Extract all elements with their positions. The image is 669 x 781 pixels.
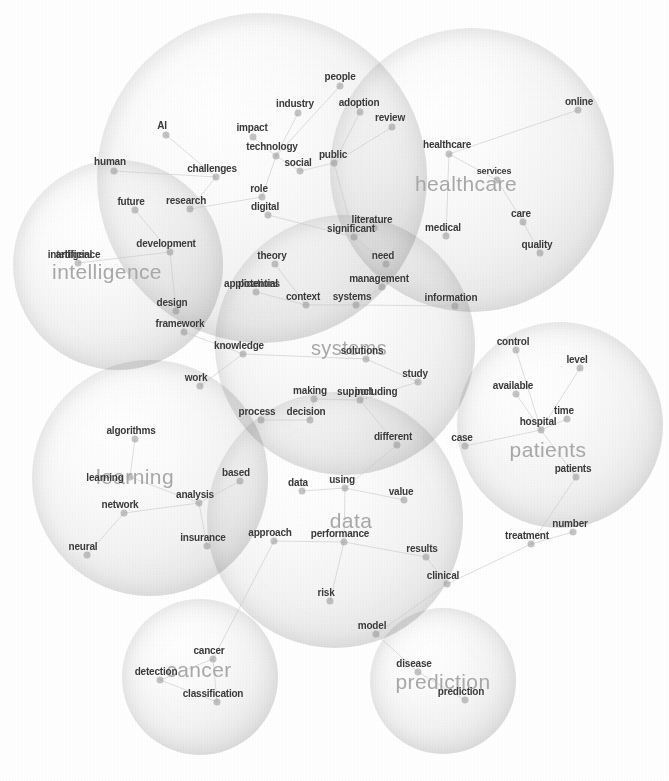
node-dot: [357, 109, 364, 116]
term-label-management: management: [349, 273, 409, 284]
node-dot: [520, 219, 527, 226]
term-label-potential: potential: [238, 278, 278, 289]
term-label-review: review: [375, 112, 405, 123]
node-dot: [259, 194, 266, 201]
node-dot: [132, 207, 139, 214]
node-dot: [240, 351, 247, 358]
node-dot: [443, 233, 450, 240]
node-dot: [570, 529, 577, 536]
node-dot: [253, 289, 260, 296]
node-dot: [353, 302, 360, 309]
node-dot: [394, 442, 401, 449]
node-dot: [272, 261, 279, 268]
term-label-results: results: [406, 543, 437, 554]
node-dot: [423, 554, 430, 561]
term-label-online: online: [565, 96, 593, 107]
node-dot: [341, 539, 348, 546]
node-dot: [446, 151, 453, 158]
term-label-technology: technology: [246, 141, 297, 152]
term-label-people: people: [324, 71, 355, 82]
term-label-algorithms: algorithms: [106, 425, 155, 436]
node-dot: [132, 436, 139, 443]
term-label-significant: significant: [327, 223, 375, 234]
term-label-solutions: solutions: [341, 345, 384, 356]
cluster-title-intelligence: intelligence: [52, 260, 162, 284]
node-dot: [351, 234, 358, 241]
node-dot: [303, 302, 310, 309]
node-dot: [564, 416, 571, 423]
term-label-different: different: [374, 431, 412, 442]
term-label-role: role: [250, 183, 268, 194]
node-dot: [157, 677, 164, 684]
term-label-risk: risk: [318, 587, 335, 598]
node-dot: [295, 110, 302, 117]
term-label-work: work: [185, 372, 208, 383]
bubble-cluster-figure: healthcareintelligencesystemslearningdat…: [0, 0, 669, 781]
node-dot: [84, 552, 91, 559]
term-label-level: level: [566, 354, 587, 365]
node-dot: [258, 417, 265, 424]
node-dot: [444, 581, 451, 588]
term-label-future: future: [117, 196, 144, 207]
term-label-design: design: [156, 297, 187, 308]
node-dot: [462, 443, 469, 450]
term-label-detection: detection: [135, 666, 178, 677]
node-dot: [181, 329, 188, 336]
term-label-control: control: [497, 336, 530, 347]
term-label-model: model: [358, 620, 386, 631]
node-dot: [167, 249, 174, 256]
term-label-number: number: [552, 518, 587, 529]
term-label-including: including: [355, 386, 398, 397]
term-label-theory: theory: [257, 250, 286, 261]
term-label-network: network: [102, 499, 139, 510]
term-label-approach: approach: [248, 527, 291, 538]
term-label-industry: industry: [276, 98, 314, 109]
node-dot: [297, 168, 304, 175]
node-dot: [121, 510, 128, 517]
node-dot: [265, 212, 272, 219]
term-label-hospital: hospital: [520, 416, 557, 427]
term-label-information: information: [425, 292, 478, 303]
term-label-disease: disease: [396, 658, 431, 669]
term-label-human: human: [94, 156, 126, 167]
term-label-public: public: [319, 149, 347, 160]
term-label-classification: classification: [183, 688, 244, 699]
term-label-neural: neural: [69, 541, 98, 552]
node-dot: [577, 365, 584, 372]
node-dot: [373, 631, 380, 638]
term-label-learning: learning: [86, 472, 123, 483]
term-label-systems: systems: [333, 291, 372, 302]
term-label-research: research: [166, 195, 206, 206]
node-dot: [197, 383, 204, 390]
term-label-medical: medical: [425, 222, 461, 233]
node-dot: [537, 250, 544, 257]
node-dot: [271, 538, 278, 545]
term-label-analysis: analysis: [176, 489, 214, 500]
node-dot: [383, 261, 390, 268]
term-label-services: services: [477, 166, 511, 176]
term-label-using: using: [329, 474, 355, 485]
node-dot: [513, 391, 520, 398]
term-label-case: case: [451, 432, 472, 443]
term-label-making: making: [293, 385, 327, 396]
node-dot: [528, 541, 535, 548]
term-label-social: social: [284, 157, 311, 168]
node-dot: [389, 124, 396, 131]
term-label-value: value: [389, 486, 414, 497]
node-dot: [111, 168, 118, 175]
node-dot: [513, 347, 520, 354]
node-dot: [331, 160, 338, 167]
link-line: [447, 544, 531, 584]
node-dot: [327, 598, 334, 605]
node-dot: [204, 543, 211, 550]
term-label-treatment: treatment: [505, 530, 549, 541]
node-dot: [213, 174, 220, 181]
term-label-data: data: [288, 477, 308, 488]
term-label-context: context: [286, 291, 320, 302]
term-label-development: development: [136, 238, 195, 249]
term-label-time: time: [554, 405, 574, 416]
node-dot: [250, 134, 257, 141]
node-dot: [163, 132, 170, 139]
node-dot: [379, 284, 386, 291]
term-label-artificial: artificial: [56, 249, 92, 260]
